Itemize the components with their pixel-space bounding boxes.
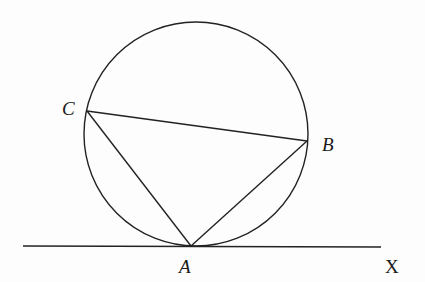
circle [84, 22, 308, 246]
chord-ab [191, 141, 307, 246]
point-label-b: B [322, 135, 334, 154]
point-label-c: C [62, 99, 75, 118]
diagram-svg [0, 0, 425, 282]
geometry-diagram: C B A X [0, 0, 425, 282]
chord-cb [87, 111, 307, 141]
point-label-a: A [179, 257, 191, 276]
chord-ca [87, 111, 191, 246]
line-end-label-x: X [385, 257, 399, 276]
tangent-line-ax [23, 246, 381, 247]
